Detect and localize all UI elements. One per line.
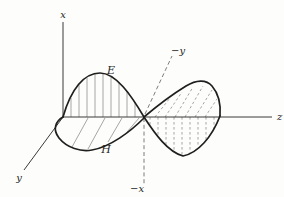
y-axis-label: y xyxy=(15,172,22,183)
h-field-label: H xyxy=(100,143,111,156)
e-field-hatch-right xyxy=(150,117,214,156)
hatch-line xyxy=(155,98,170,117)
em-wave-diagram: x y z −y −x E H xyxy=(0,0,284,197)
e-field-label: E xyxy=(106,64,115,77)
neg-y-label: −y xyxy=(171,45,185,56)
e-field-hatch-left xyxy=(71,74,135,118)
neg-x-label: −x xyxy=(130,183,144,194)
y-axis-line xyxy=(24,117,63,170)
h-field-envelope-left xyxy=(55,117,144,151)
x-axis-label: x xyxy=(60,9,66,20)
hatch-line xyxy=(72,118,88,147)
hatch-line xyxy=(195,90,212,117)
hatch-line xyxy=(165,92,182,117)
em-wave-svg: x y z −y −x E H xyxy=(0,0,284,197)
z-axis-label: z xyxy=(276,111,283,122)
hatch-line xyxy=(185,86,203,117)
e-field-envelope-left xyxy=(63,73,144,117)
hatch-line xyxy=(205,99,217,117)
